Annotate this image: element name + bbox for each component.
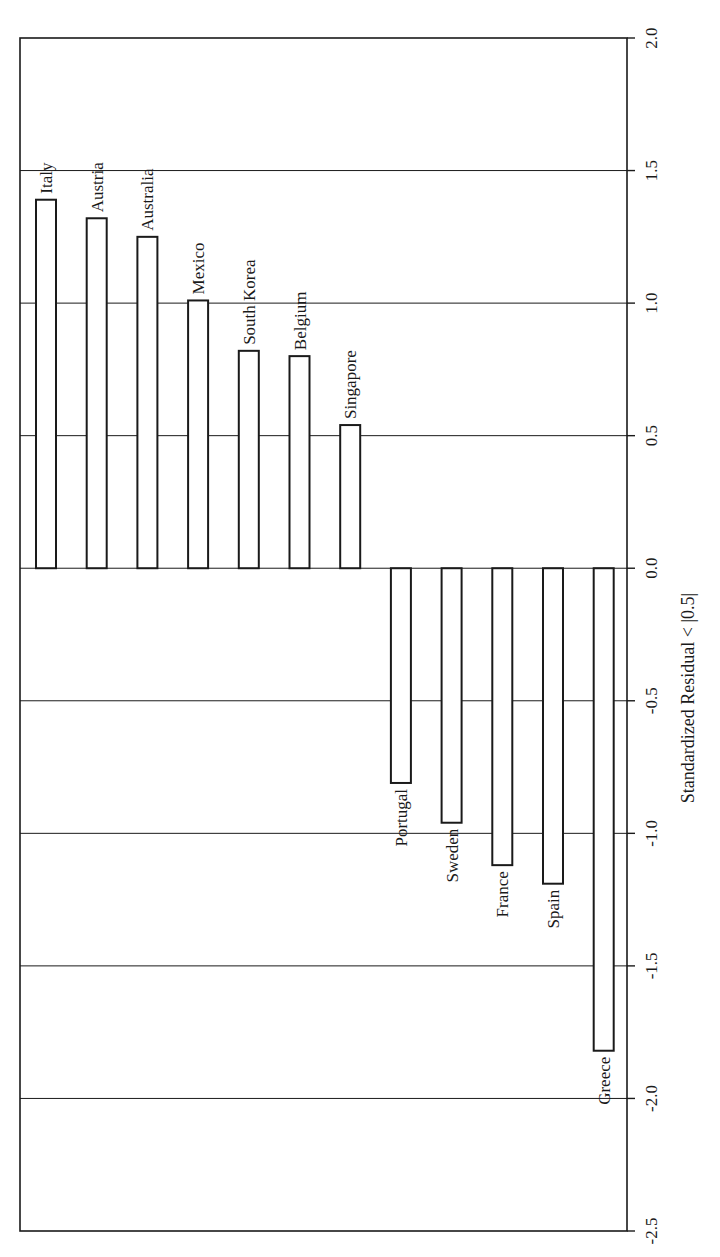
bar [36,200,56,569]
tick-label: -2.0 [642,1085,661,1112]
bar [391,568,411,783]
label-backing [0,0,71,7]
bar-label: Australia [138,168,157,231]
bar-label: South Korea [240,259,259,345]
tick-label: 2.0 [642,27,661,48]
tick-label: -2.5 [642,1218,661,1245]
tick-label: -1.5 [642,952,661,979]
bar [290,356,310,568]
residual-bar-chart: ItalyAustriaAustraliaMexicoSouth KoreaBe… [0,0,720,1257]
value-axis: 2.01.51.00.50.0-0.5-1.0-1.5-2.0-2.5 [627,27,661,1244]
label-backing [0,0,2,7]
tick-label: 1.0 [642,292,661,313]
bar-label: Austria [88,162,107,213]
plot-frame [20,38,627,1231]
bar [543,568,563,883]
tick-label: 0.0 [642,558,661,579]
bar-label: Sweden [443,828,462,882]
bar-label: France [493,871,512,917]
bar [492,568,512,865]
bar-label: Singapore [341,350,360,419]
bar [239,351,259,568]
bar [442,568,462,823]
bar-label: Italy [37,162,56,194]
value-axis-title: Standardized Residual < |0.5| [678,593,698,803]
tick-label: -0.5 [642,687,661,714]
bar [340,425,360,568]
tick-label: -1.0 [642,820,661,847]
gridlines [20,171,627,1099]
tick-label: 1.5 [642,160,661,181]
bar-label: Spain [544,889,563,928]
bar-label: Mexico [189,243,208,295]
bar [188,300,208,568]
bar [137,237,157,568]
bar-label: Belgium [291,292,310,351]
bars: ItalyAustriaAustraliaMexicoSouth KoreaBe… [0,0,614,1105]
bar [87,218,107,568]
bar-label: Greece [595,1057,614,1105]
bar-label: Portugal [392,789,411,847]
bar [594,568,614,1051]
tick-label: 0.5 [642,425,661,446]
